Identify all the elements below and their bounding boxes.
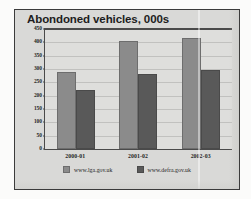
legend-label-1: www.defra.gov.uk xyxy=(148,167,191,173)
y-axis-tick-label: 0 xyxy=(39,146,42,151)
bar-group xyxy=(57,29,95,149)
bar-2001-02-series-0 xyxy=(119,41,138,149)
x-axis-label-2001-02: 2001-02 xyxy=(128,153,148,165)
x-axis-label-2002-03: 2002-03 xyxy=(191,153,211,165)
x-axis-category-labels: 2000-012001-022002-03 xyxy=(44,153,232,165)
bar-2001-02-series-1 xyxy=(138,74,157,149)
y-axis-tick-label: 350 xyxy=(34,53,42,58)
bar-chart-figure: Abondoned vehicles, 000s 050100150200250… xyxy=(14,9,240,190)
y-axis-tick-label: 50 xyxy=(37,133,42,138)
bar-2002-03-series-1 xyxy=(201,70,220,149)
legend-entry-1: www.defra.gov.uk xyxy=(137,166,191,173)
y-axis-tick-label: 150 xyxy=(34,106,42,111)
y-axis-tick-label: 400 xyxy=(34,40,42,45)
y-axis-tick-label: 200 xyxy=(34,93,42,98)
bar-2002-03-series-0 xyxy=(182,38,201,149)
x-axis-label-2000-01: 2000-01 xyxy=(65,153,85,165)
y-axis-tick-label: 300 xyxy=(34,66,42,71)
bar-group xyxy=(182,29,220,149)
y-axis-tick-label: 100 xyxy=(34,120,42,125)
bar-2000-01-series-0 xyxy=(57,72,76,149)
plot-wrapper: 050100150200250300350400450 xyxy=(44,28,232,150)
bar-groups xyxy=(45,29,232,149)
legend-swatch-icon-1 xyxy=(137,166,144,173)
plot-area: 050100150200250300350400450 xyxy=(44,28,232,150)
chart-legend: www.lga.gov.ukwww.defra.gov.uk xyxy=(15,166,239,173)
y-axis-tick-label: 250 xyxy=(34,80,42,85)
legend-swatch-icon-0 xyxy=(63,166,70,173)
bar-group xyxy=(119,29,157,149)
scanned-page-background: Abondoned vehicles, 000s 050100150200250… xyxy=(0,0,251,199)
y-axis-tick-label: 450 xyxy=(34,26,42,31)
bar-2000-01-series-1 xyxy=(76,90,95,149)
scan-shadow-bottom xyxy=(15,180,239,189)
legend-label-0: www.lga.gov.uk xyxy=(74,167,112,173)
chart-title: Abondoned vehicles, 000s xyxy=(27,13,169,25)
legend-entry-0: www.lga.gov.uk xyxy=(63,166,112,173)
